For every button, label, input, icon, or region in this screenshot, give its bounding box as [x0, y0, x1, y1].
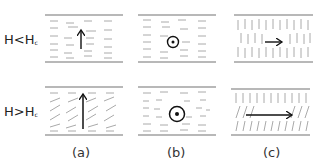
molecules: [238, 19, 310, 58]
plate: [45, 134, 123, 136]
plate: [234, 61, 313, 63]
field-out-of-plane-icon: [170, 107, 185, 122]
plate: [138, 134, 216, 136]
plate: [138, 61, 216, 63]
caption-a: (a): [72, 145, 90, 160]
plate: [234, 14, 313, 16]
plate: [138, 86, 216, 88]
molecules: [143, 20, 206, 58]
diagram-canvas: [0, 0, 329, 165]
panel-a-top: [45, 14, 123, 63]
plate: [45, 14, 123, 16]
molecules: [143, 92, 210, 131]
plate: [138, 14, 216, 16]
molecules: [236, 93, 309, 131]
plate: [231, 134, 310, 136]
panel-a-bottom: [45, 86, 123, 136]
plate: [45, 86, 123, 88]
plate: [45, 61, 123, 63]
panel-c-bottom: [231, 88, 310, 136]
field-out-of-plane-icon: [168, 37, 179, 48]
caption-c: (c): [263, 145, 280, 160]
panel-c-top: [234, 14, 313, 63]
caption-b: (b): [167, 145, 185, 160]
panel-b-top: [138, 14, 216, 63]
panel-b-bottom: [138, 86, 216, 136]
plate: [231, 88, 310, 90]
